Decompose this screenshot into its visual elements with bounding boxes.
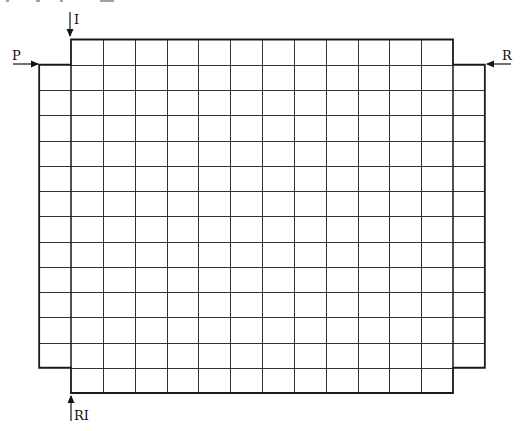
grid-diagram: I P R RI	[0, 0, 523, 431]
label-r: R	[502, 48, 513, 63]
clipped-top-text	[6, 0, 114, 2]
label-ri: RI	[74, 408, 89, 423]
grid-inner-lines	[39, 40, 485, 394]
label-p: P	[12, 48, 21, 63]
label-i: I	[74, 12, 79, 27]
